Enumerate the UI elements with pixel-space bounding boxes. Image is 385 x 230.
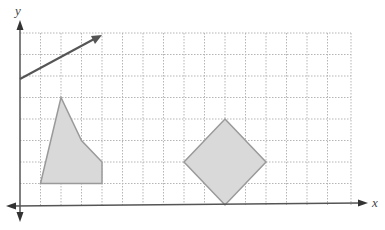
coordinate-diagram: y x [0,0,385,230]
x-axis-label: x [372,195,378,211]
diagram-canvas [0,0,385,230]
x-axis-right-arrow-icon [358,200,368,207]
y-axis-up-arrow-icon [17,20,24,30]
x-axis-left-arrow-icon [6,203,16,210]
y-axis-label: y [15,3,21,19]
diamond-shape [184,119,266,205]
y-axis-down-arrow-icon [17,212,24,222]
y-axis [17,20,24,222]
x-axis [6,200,368,210]
